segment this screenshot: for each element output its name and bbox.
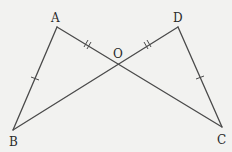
label-o: O (113, 47, 123, 61)
label-d: D (173, 11, 183, 25)
segment-ac (57, 27, 222, 127)
label-a: A (50, 11, 60, 25)
segment-db (13, 27, 178, 130)
label-c: C (217, 133, 226, 147)
geometry-diagram: A D O B C (0, 0, 232, 152)
label-b: B (9, 135, 18, 149)
